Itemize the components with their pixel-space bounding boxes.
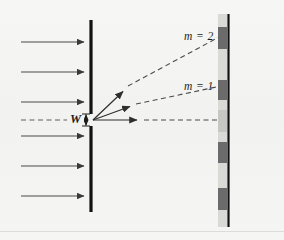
diffraction-figure: m = 2 m = 1 W xyxy=(0,0,284,240)
ray-m2-solid xyxy=(93,92,123,121)
slit-width-dimension xyxy=(82,114,90,126)
label-order-m1: m = 1 xyxy=(184,81,214,93)
fringe-m1-upper xyxy=(218,80,227,100)
diagram-canvas xyxy=(0,0,284,240)
diffracted-rays xyxy=(93,36,221,120)
fringe-m2-upper xyxy=(218,27,227,49)
ray-m1-solid xyxy=(93,107,130,121)
fringe-m1-lower xyxy=(218,142,227,163)
label-slit-width: W xyxy=(70,113,81,126)
fringe-m2-lower xyxy=(218,188,227,210)
fringe-central xyxy=(218,110,227,132)
label-order-m2: m = 2 xyxy=(184,31,214,43)
observation-screen xyxy=(218,14,229,227)
ray-m2-dashed xyxy=(128,36,221,86)
